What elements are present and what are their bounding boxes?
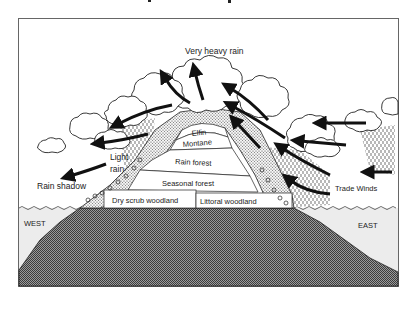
label-trade-winds: Trade Winds — [335, 184, 377, 193]
label-light-rain-line2: rain — [110, 164, 124, 174]
cloud-far-east — [382, 98, 398, 116]
label-west: WEST — [24, 219, 46, 228]
label-dry-scrub-woodland: Dry scrub woodland — [112, 196, 178, 205]
label-east: EAST — [358, 221, 378, 230]
label-light-rain-line1: Light — [110, 152, 129, 162]
label-rain-shadow: Rain shadow — [37, 181, 87, 191]
label-elfin: Elfin — [191, 128, 206, 138]
label-littoral-woodland: Littoral woodland — [200, 197, 257, 206]
orographic-rainfall-diagram: Very heavy rain Elfin Montane Rain fores… — [0, 0, 416, 309]
label-very-heavy-rain: Very heavy rain — [185, 46, 244, 56]
title-remnant — [148, 0, 231, 3]
label-seasonal-forest: Seasonal forest — [162, 179, 215, 188]
